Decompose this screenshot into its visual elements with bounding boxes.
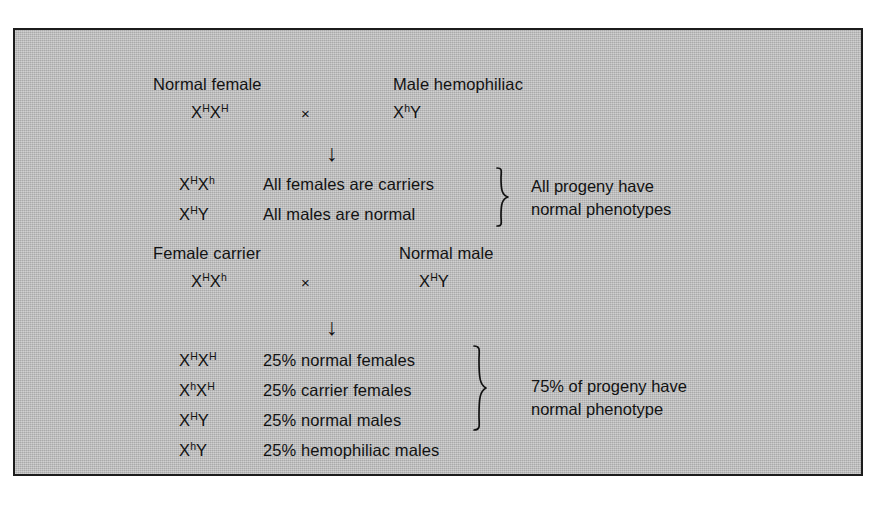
- allele-superscript: H: [209, 350, 217, 362]
- cross1-mother-genotype: XHXH: [191, 104, 229, 121]
- allele-superscript: H: [190, 410, 198, 422]
- allele-symbol: X: [419, 272, 430, 290]
- cross2-brace: [471, 344, 489, 432]
- cross2-offspring-phenotype: 25% carrier females: [263, 382, 412, 399]
- cross2-operator: ×: [301, 275, 310, 290]
- allele-symbol: X: [179, 205, 190, 223]
- cross2-summary-line1: 75% of progeny have: [531, 375, 687, 398]
- cross1-operator: ×: [301, 106, 310, 121]
- cross2-offspring-genotype: XhY: [179, 442, 207, 459]
- allele-symbol: Y: [410, 103, 421, 121]
- allele-symbol: X: [179, 381, 190, 399]
- allele-symbol: Y: [198, 205, 209, 223]
- cross2-mother-label: Female carrier: [153, 245, 261, 262]
- allele-superscript: H: [202, 102, 210, 114]
- allele-symbol: X: [210, 272, 221, 290]
- cross2-offspring-genotype: XhXH: [179, 382, 215, 399]
- allele-superscript: H: [202, 271, 210, 283]
- cross1-offspring-phenotype: All females are carriers: [263, 176, 434, 193]
- allele-superscript: h: [209, 174, 215, 186]
- allele-symbol: X: [191, 272, 202, 290]
- cross1-father-label: Male hemophiliac: [393, 76, 523, 93]
- allele-symbol: Y: [438, 272, 449, 290]
- cross1-father-genotype: XhY: [393, 104, 421, 121]
- allele-symbol: X: [179, 351, 190, 369]
- cross2-offspring-genotype: XHXH: [179, 352, 217, 369]
- figure-panel: Normal female XHXH × Male hemophiliac Xh…: [13, 28, 863, 476]
- cross1-offspring-genotype: XHY: [179, 206, 209, 223]
- cross2-offspring-phenotype: 25% normal males: [263, 412, 401, 429]
- cross2-summary-line2: normal phenotype: [531, 398, 687, 421]
- cross2-mother-genotype: XHXh: [191, 273, 227, 290]
- allele-symbol: X: [179, 411, 190, 429]
- allele-superscript: H: [221, 102, 229, 114]
- allele-symbol: X: [196, 381, 207, 399]
- cross2-down-arrow-icon: ↓: [325, 316, 339, 339]
- cross1-brace: [494, 166, 510, 228]
- allele-symbol: X: [210, 103, 221, 121]
- allele-symbol: X: [198, 351, 209, 369]
- allele-symbol: X: [191, 103, 202, 121]
- cross1-summary-line2: normal phenotypes: [531, 198, 671, 221]
- cross2-offspring-genotype: XHY: [179, 412, 209, 429]
- allele-symbol: Y: [198, 411, 209, 429]
- cross1-offspring-phenotype: All males are normal: [263, 206, 415, 223]
- allele-superscript: H: [190, 174, 198, 186]
- allele-symbol: Y: [196, 441, 207, 459]
- cross2-offspring-phenotype: 25% hemophiliac males: [263, 442, 439, 459]
- cross1-down-arrow-icon: ↓: [325, 142, 339, 165]
- allele-superscript: H: [430, 271, 438, 283]
- allele-superscript: H: [207, 380, 215, 392]
- cross1-offspring-genotype: XHXh: [179, 176, 215, 193]
- allele-superscript: H: [190, 204, 198, 216]
- allele-symbol: X: [179, 441, 190, 459]
- cross1-summary-line1: All progeny have: [531, 175, 671, 198]
- cross2-offspring-phenotype: 25% normal females: [263, 352, 415, 369]
- allele-superscript: H: [190, 350, 198, 362]
- allele-superscript: h: [221, 271, 227, 283]
- cross1-summary: All progeny have normal phenotypes: [531, 175, 671, 221]
- allele-symbol: X: [179, 175, 190, 193]
- cross2-summary: 75% of progeny have normal phenotype: [531, 375, 687, 421]
- cross1-mother-label: Normal female: [153, 76, 262, 93]
- allele-symbol: X: [198, 175, 209, 193]
- diagram-canvas: Normal female XHXH × Male hemophiliac Xh…: [15, 30, 861, 474]
- allele-symbol: X: [393, 103, 404, 121]
- cross2-father-genotype: XHY: [419, 273, 449, 290]
- cross2-father-label: Normal male: [399, 245, 494, 262]
